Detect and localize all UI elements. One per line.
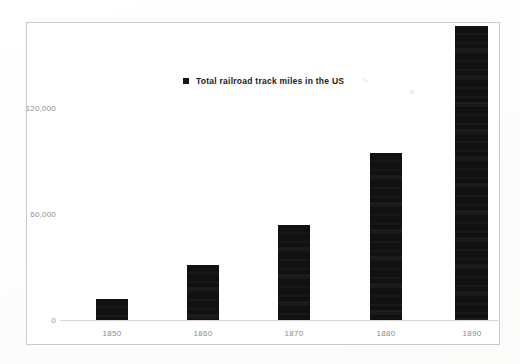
x-axis-tick-1870: 1870 xyxy=(285,329,304,338)
legend-swatch-black-square-icon xyxy=(183,78,189,84)
bar-1890[interactable] xyxy=(455,26,488,320)
x-axis-tick-1880: 1880 xyxy=(377,329,396,338)
x-axis-tick-1850: 1850 xyxy=(103,329,122,338)
legend-item-label: Total railroad track miles in the US xyxy=(196,76,344,86)
bar-1860[interactable] xyxy=(187,265,219,320)
x-axis-tick-1890: 1890 xyxy=(463,329,482,338)
bar-series-total-railroad-track-miles xyxy=(0,0,520,364)
bar-1850[interactable] xyxy=(96,299,128,320)
chart-screenshot: 120,000 60,000 0 1850 1860 1870 1880 189… xyxy=(0,0,520,364)
bar-1870[interactable] xyxy=(278,225,310,320)
x-axis-tick-1860: 1860 xyxy=(194,329,213,338)
bar-1880[interactable] xyxy=(370,153,402,320)
chart-legend[interactable]: Total railroad track miles in the US xyxy=(183,76,344,86)
